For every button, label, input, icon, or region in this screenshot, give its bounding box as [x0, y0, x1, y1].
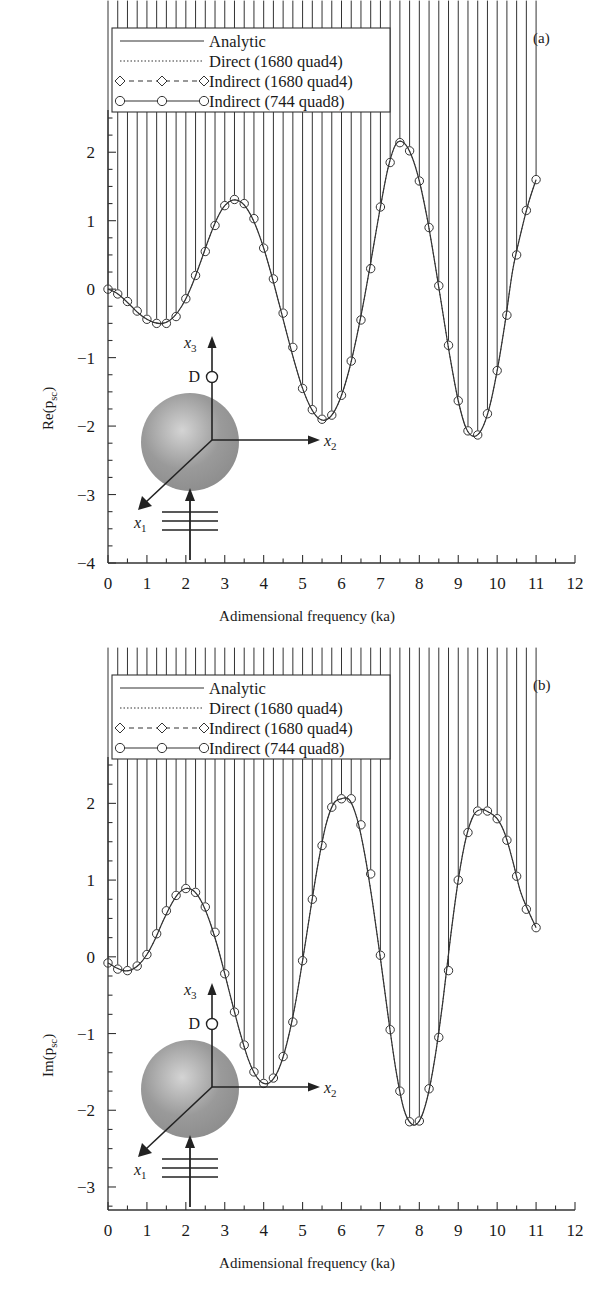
- x-tick-label: 9: [454, 574, 463, 593]
- x-tick-label: 11: [528, 1221, 544, 1240]
- legend-entry-label: Direct (1680 quad4): [209, 52, 343, 71]
- y-axis-label-suffix: ): [40, 1034, 56, 1039]
- axis-x2-label: x2: [323, 432, 337, 452]
- y-tick-label: 2: [87, 794, 96, 813]
- legend-entry-label: Indirect (744 quad8): [209, 92, 345, 111]
- legend-entry-label: Direct (1680 quad4): [209, 699, 343, 718]
- axis-x3-label: x3: [183, 981, 197, 1001]
- axis-x2-label: x2: [323, 1079, 337, 1099]
- legend-circle-marker: [157, 743, 166, 752]
- panel-b: 0123456789101112210−1−2−3AnalyticDirect …: [0, 647, 614, 1293]
- legend-circle-marker: [199, 743, 208, 752]
- axis-x2-arrowhead: [308, 1083, 320, 1092]
- circle-marker: [211, 928, 219, 936]
- x-tick-label: 1: [143, 574, 152, 593]
- y-axis-label-sub: sc: [47, 1039, 59, 1048]
- legend-circle-marker: [115, 96, 124, 105]
- axis-x3-label: x3: [183, 334, 197, 354]
- y-tick-label: 1: [87, 212, 96, 231]
- y-axis-label-prefix: Im(p: [40, 1048, 56, 1077]
- axis-x2-arrowhead: [308, 436, 320, 445]
- x-tick-label: 10: [489, 574, 506, 593]
- legend-entry-label: Analytic: [209, 32, 266, 51]
- x-tick-label: 6: [337, 574, 346, 593]
- legend-entry-label: Analytic: [209, 679, 266, 698]
- x-tick-label: 4: [259, 574, 268, 593]
- axis-x3-arrowhead: [208, 336, 217, 348]
- circle-marker: [279, 309, 287, 317]
- y-axis-label-suffix: ): [40, 387, 56, 392]
- axis-x1-label: x1: [133, 1161, 147, 1181]
- x-tick-group: 0123456789101112: [104, 555, 584, 593]
- circle-marker: [357, 821, 365, 829]
- x-tick-label: 7: [376, 574, 385, 593]
- legend-entry-label: Indirect (1680 quad4): [209, 72, 353, 91]
- x-tick-label: 1: [143, 1221, 152, 1240]
- circle-marker: [444, 966, 452, 974]
- field-point-label: D: [188, 368, 200, 385]
- x-tick-label: 0: [104, 574, 113, 593]
- axes-group: [108, 757, 575, 1210]
- field-point-marker: [207, 372, 218, 383]
- circle-marker: [133, 307, 141, 315]
- x-tick-label: 3: [221, 1221, 230, 1240]
- x-tick-label: 8: [415, 1221, 424, 1240]
- y-axis-label-sub: sc: [47, 392, 59, 401]
- x-tick-label: 12: [567, 1221, 584, 1240]
- field-point-label: D: [188, 1015, 200, 1032]
- y-tick-label: 2: [87, 143, 96, 162]
- x-tick-label: 8: [415, 574, 424, 593]
- field-point-marker: [207, 1019, 218, 1030]
- y-tick-label: −2: [77, 1101, 95, 1120]
- x-tick-label: 4: [259, 1221, 268, 1240]
- x-tick-label: 11: [528, 574, 544, 593]
- panel-a-x-axis-label: Adimensional frequency (ka): [0, 608, 614, 625]
- sphere-shape: [141, 1040, 239, 1138]
- y-tick-label: 0: [87, 948, 96, 967]
- legend-circle-marker: [199, 96, 208, 105]
- y-tick-label: 0: [87, 280, 96, 299]
- legend-circle-marker: [115, 743, 124, 752]
- y-tick-label: −2: [77, 417, 95, 436]
- x-tick-label: 10: [489, 1221, 506, 1240]
- y-tick-label: −1: [77, 1025, 95, 1044]
- axis-x3-arrowhead: [208, 983, 217, 995]
- y-tick-label: −1: [77, 349, 95, 368]
- plot-a-canvas: 0123456789101112210−1−2−3−4AnalyticDirec…: [0, 0, 614, 646]
- x-tick-group: 0123456789101112: [104, 1202, 584, 1240]
- panel-b-x-axis-label: Adimensional frequency (ka): [0, 1255, 614, 1272]
- x-tick-label: 6: [337, 1221, 346, 1240]
- circle-marker: [123, 297, 131, 305]
- y-tick-label: −4: [77, 554, 96, 573]
- y-tick-group: 210−1−2−3: [77, 765, 116, 1206]
- legend-entry-label: Indirect (1680 quad4): [209, 719, 353, 738]
- x-tick-label: 2: [182, 1221, 191, 1240]
- x-tick-label: 3: [221, 574, 230, 593]
- y-axis-label-prefix: Re(p: [40, 401, 56, 430]
- panel-a-y-axis-label: Re(psc): [40, 387, 59, 430]
- x-tick-label: 9: [454, 1221, 463, 1240]
- inset-scattering-diagram: x3x2x1D: [133, 334, 337, 560]
- panel-a-label: (a): [533, 30, 550, 47]
- circle-marker: [240, 199, 248, 207]
- y-tick-group: 210−1−2−3−4: [77, 118, 116, 573]
- x-tick-label: 12: [567, 574, 584, 593]
- legend-circle-marker: [157, 96, 166, 105]
- y-tick-label: −3: [77, 486, 95, 505]
- panel-b-label: (b): [533, 677, 551, 694]
- x-tick-label: 0: [104, 1221, 113, 1240]
- legend: AnalyticDirect (1680 quad4)Indirect (168…: [112, 28, 390, 112]
- plot-b-canvas: 0123456789101112210−1−2−3AnalyticDirect …: [0, 647, 614, 1293]
- x-tick-label: 5: [298, 1221, 307, 1240]
- x-tick-label: 2: [182, 574, 191, 593]
- x-tick-label: 5: [298, 574, 307, 593]
- panel-b-y-axis-label: Im(psc): [40, 1034, 59, 1077]
- legend-entry-label: Indirect (744 quad8): [209, 739, 345, 758]
- sphere-shape: [141, 393, 239, 491]
- y-tick-label: −3: [77, 1178, 95, 1197]
- y-tick-label: 1: [87, 871, 96, 890]
- axis-x1-label: x1: [133, 514, 147, 534]
- x-tick-label: 7: [376, 1221, 385, 1240]
- panel-a: 0123456789101112210−1−2−3−4AnalyticDirec…: [0, 0, 614, 646]
- legend: AnalyticDirect (1680 quad4)Indirect (168…: [112, 675, 390, 759]
